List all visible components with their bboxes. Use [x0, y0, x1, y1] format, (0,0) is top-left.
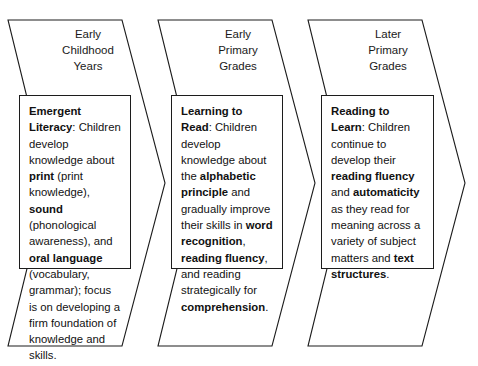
stage-box-early-primary-grades: Learning to Read: Children develop knowl… — [171, 95, 283, 269]
stage-body-early-primary-grades: Learning to Read: Children develop knowl… — [181, 103, 273, 315]
diagram-canvas: Early Childhood Years Early Primary Grad… — [0, 0, 478, 366]
stage-body-later-primary-grades: Reading to Learn: Children continue to d… — [331, 103, 424, 282]
stage-box-later-primary-grades: Reading to Learn: Children continue to d… — [321, 95, 434, 269]
stage-box-early-childhood-years: Emergent Literacy: Children develop know… — [19, 95, 131, 269]
stage-header-early-primary-grades: Early Primary Grades — [183, 26, 293, 75]
stage-heading: Reading to Learn — [331, 105, 389, 133]
stage-header-early-childhood-years: Early Childhood Years — [33, 26, 143, 75]
stage-header-later-primary-grades: Later Primary Grades — [333, 26, 443, 75]
stage-heading: Learning to Read — [181, 105, 243, 133]
stage-heading: Emergent Literacy — [29, 105, 81, 133]
stage-body-early-childhood-years: Emergent Literacy: Children develop know… — [29, 103, 121, 364]
